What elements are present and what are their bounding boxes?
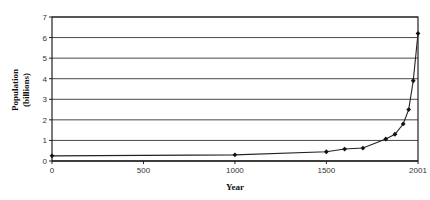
y-tick-label: 7 xyxy=(43,13,48,22)
y-axis-label: Population (billions) xyxy=(10,69,31,111)
y-tick-label: 3 xyxy=(43,95,48,104)
y-tick-label: 4 xyxy=(43,75,48,84)
x-tick-label: 1000 xyxy=(226,166,244,175)
y-axis-label-line-1: Population xyxy=(10,69,20,111)
x-tick-label: 2001 xyxy=(409,166,427,175)
population-line-chart: 01234567 0500100015002001 Population (bi… xyxy=(0,0,430,200)
x-tick-label: 0 xyxy=(50,166,55,175)
data-point-marker xyxy=(342,147,347,152)
gridlines xyxy=(52,17,418,161)
y-tick-label: 2 xyxy=(43,116,48,125)
series-line xyxy=(52,33,418,155)
y-axis-ticks: 01234567 xyxy=(43,13,52,166)
population-series xyxy=(50,31,421,158)
data-point-marker xyxy=(416,31,421,36)
data-point-marker xyxy=(324,149,329,154)
y-tick-label: 6 xyxy=(43,34,48,43)
y-axis-label-line-2: (billions) xyxy=(21,73,31,107)
data-point-marker xyxy=(50,153,55,158)
x-tick-label: 1500 xyxy=(317,166,335,175)
data-point-marker xyxy=(361,146,366,151)
x-axis-label: Year xyxy=(226,182,244,192)
data-point-marker xyxy=(233,152,238,157)
y-tick-label: 1 xyxy=(43,136,48,145)
y-tick-label: 0 xyxy=(43,157,48,166)
plot-area xyxy=(52,17,418,161)
x-axis-ticks: 0500100015002001 xyxy=(50,161,428,175)
data-point-marker xyxy=(406,107,411,112)
x-tick-label: 500 xyxy=(137,166,151,175)
y-tick-label: 5 xyxy=(43,54,48,63)
